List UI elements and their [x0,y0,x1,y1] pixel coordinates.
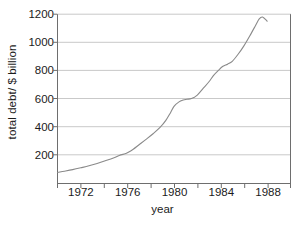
y-tick-marks [53,14,57,155]
x-tick-label: 1976 [115,186,141,198]
chart-figure: total debt/ $ billion 1200 1000 800 600 … [0,0,303,228]
gridlines [57,14,291,155]
x-tick-label: 1972 [68,186,94,198]
x-axis-label: year [0,203,303,215]
data-series-line [58,17,268,173]
x-tick-label: 1980 [162,186,188,198]
x-tick-label: 1988 [255,186,281,198]
x-axis-label-text: year [151,203,173,215]
x-tick-label-group: 1972 1976 1980 1984 1988 [0,186,303,204]
x-tick-label: 1984 [209,186,235,198]
